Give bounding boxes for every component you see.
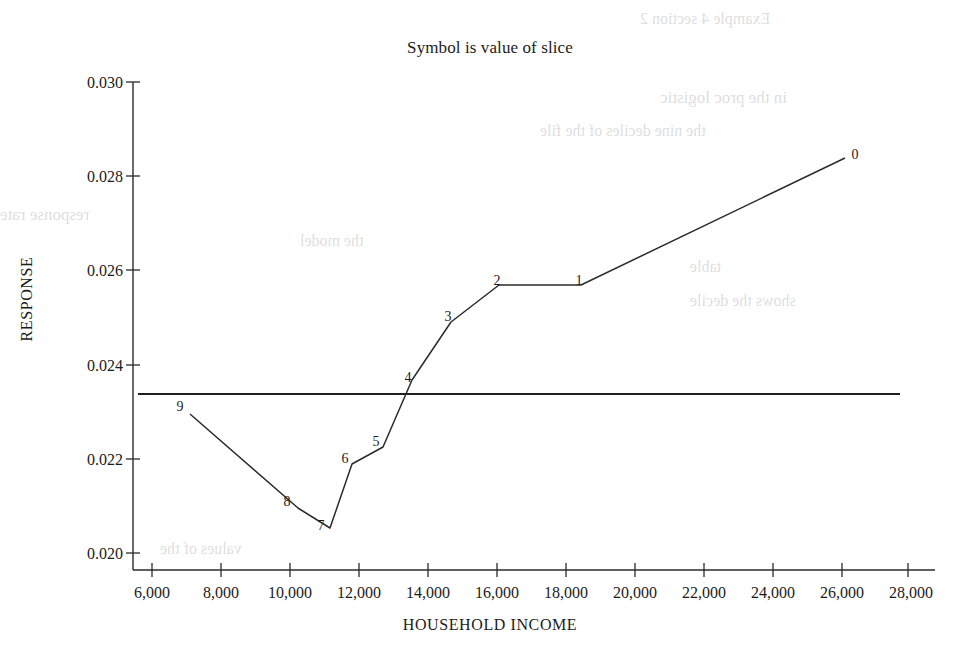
data-point-label-3: 3: [440, 310, 456, 324]
data-point-label-6: 6: [337, 452, 353, 466]
plot-area: [0, 0, 980, 665]
data-point-label-8: 8: [279, 495, 295, 509]
data-point-label-7: 7: [313, 519, 329, 533]
data-point-label-0: 0: [847, 148, 863, 162]
data-series-line: [190, 158, 845, 528]
data-point-label-1: 1: [571, 274, 587, 288]
data-point-label-2: 2: [489, 274, 505, 288]
chart-figure: Example 4 section 2 in the proc logistic…: [0, 0, 980, 665]
data-point-label-9: 9: [172, 400, 188, 414]
data-point-label-4: 4: [400, 371, 416, 385]
data-point-label-5: 5: [368, 435, 384, 449]
